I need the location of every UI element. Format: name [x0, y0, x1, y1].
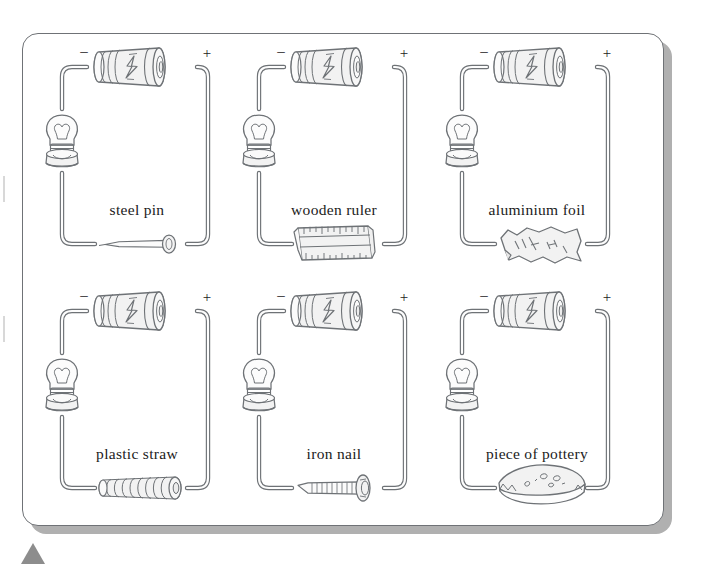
circuit-label-wooden-ruler: wooden ruler [235, 201, 433, 219]
light-bulb-icon [243, 115, 275, 167]
light-bulb-icon [243, 359, 275, 411]
circuit-label-aluminium-foil: aluminium foil [438, 201, 636, 219]
circuit-grid: – + steel pin [22, 33, 664, 526]
page-marker-triangle-icon [21, 543, 45, 564]
circuit-label-iron-nail: iron nail [235, 445, 433, 463]
battery-icon [291, 48, 362, 86]
illustration-page: – + steel pin [0, 0, 712, 569]
battery-negative-label: – [79, 43, 88, 59]
circuit-diagram-plastic-straw: – + [38, 285, 236, 522]
wire-bulb-to-battery-highlight [462, 67, 487, 109]
light-bulb-icon [446, 115, 478, 167]
battery-positive-label: + [400, 289, 408, 305]
wire-bulb-to-battery [62, 67, 87, 109]
light-bulb-icon [46, 115, 78, 167]
wire-bulb-to-battery [62, 311, 87, 353]
wire-bulb-to-battery [259, 311, 284, 353]
pottery-shard-icon [499, 465, 585, 504]
circuit-cell-steel-pin: – + steel pin [38, 41, 236, 278]
circuit-diagram-piece-of-pottery: – + [438, 285, 636, 522]
light-bulb-icon [46, 359, 78, 411]
scan-artifact-tick [3, 316, 5, 342]
battery-negative-label: – [276, 43, 285, 59]
plastic-straw-icon [99, 477, 181, 499]
circuit-label-plastic-straw: plastic straw [38, 445, 236, 463]
battery-negative-label: – [479, 43, 488, 59]
light-bulb-icon [446, 359, 478, 411]
wire-bulb-to-battery-highlight [259, 311, 284, 353]
battery-icon [291, 292, 362, 330]
battery-positive-label: + [603, 45, 611, 61]
circuit-cell-aluminium-foil: – + aluminium foil [438, 41, 636, 278]
battery-icon [494, 48, 565, 86]
battery-positive-label: + [203, 289, 211, 305]
circuit-label-piece-of-pottery: piece of pottery [438, 445, 636, 463]
wire-bulb-to-battery-highlight [462, 311, 487, 353]
battery-negative-label: – [479, 287, 488, 303]
scan-artifact-tick [3, 176, 5, 202]
steel-pin-icon [99, 235, 176, 253]
circuit-diagram-steel-pin: – + [38, 41, 236, 278]
battery-positive-label: + [400, 45, 408, 61]
wire-bulb-to-battery [462, 67, 487, 109]
battery-icon [94, 48, 165, 86]
wire-bulb-to-battery [259, 67, 284, 109]
circuit-diagram-iron-nail: – + [235, 285, 433, 522]
battery-icon [494, 292, 565, 330]
battery-positive-label: + [603, 289, 611, 305]
battery-negative-label: – [276, 287, 285, 303]
battery-negative-label: – [79, 287, 88, 303]
wire-bulb-to-battery-highlight [259, 67, 284, 109]
wire-bulb-to-battery [462, 311, 487, 353]
iron-nail-icon [298, 475, 370, 501]
wire-bulb-to-battery-highlight [62, 67, 87, 109]
wire-bulb-to-battery-highlight [62, 311, 87, 353]
circuit-cell-wooden-ruler: – + wooden ruler [235, 41, 433, 278]
circuit-label-steel-pin: steel pin [38, 201, 236, 219]
circuit-cell-piece-of-pottery: – + piece of pottery [438, 285, 636, 522]
circuit-diagram-wooden-ruler: – + [235, 41, 433, 278]
circuit-cell-iron-nail: – + iron nail [235, 285, 433, 522]
aluminium-foil-icon [501, 227, 581, 263]
battery-icon [94, 292, 165, 330]
circuit-cell-plastic-straw: – + plastic straw [38, 285, 236, 522]
wooden-ruler-icon [294, 226, 375, 260]
circuit-diagram-aluminium-foil: – + [438, 41, 636, 278]
battery-positive-label: + [203, 45, 211, 61]
